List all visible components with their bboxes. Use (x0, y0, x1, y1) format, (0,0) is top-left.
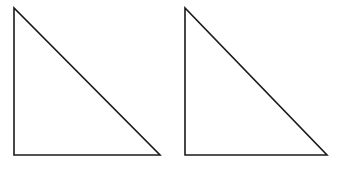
left-triangle (14, 8, 160, 155)
diagram-canvas (0, 0, 343, 169)
right-triangle (185, 8, 327, 155)
